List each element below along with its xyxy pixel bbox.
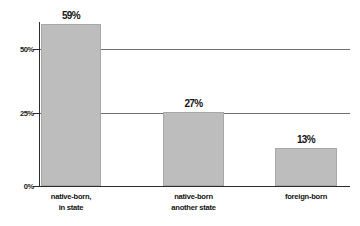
category-label-line: another state <box>146 203 241 214</box>
bar-value-label: 13% <box>275 134 337 145</box>
category-label-line: native-born, <box>26 192 116 203</box>
category-label-line: in state <box>26 203 116 214</box>
y-tick-mark-50 <box>33 49 40 50</box>
bar-foreign-born <box>275 148 337 186</box>
bar-native-born-another-state <box>163 112 224 186</box>
category-label: foreign-born <box>262 192 350 203</box>
category-label-line: native-born <box>146 192 241 203</box>
bar-chart: 50% 25% 0% 59% 27% 13% native-born, in s… <box>0 0 360 226</box>
plot-area: 50% 25% 0% 59% 27% 13% native-born, in s… <box>0 0 360 226</box>
category-label: native-born another state <box>146 192 241 213</box>
bar-value-label: 27% <box>163 98 224 109</box>
y-tick-label-0: 0% <box>24 182 34 191</box>
x-axis-line <box>39 186 350 187</box>
y-axis-line <box>39 22 40 187</box>
y-tick-label-25: 25% <box>20 109 34 118</box>
bar-native-born-in-state <box>41 24 101 186</box>
category-label: native-born, in state <box>26 192 116 213</box>
category-label-line: foreign-born <box>262 192 350 203</box>
y-tick-mark-25 <box>33 113 40 114</box>
y-tick-mark-0 <box>33 186 40 187</box>
bar-value-label: 59% <box>41 10 101 21</box>
y-tick-label-50: 50% <box>20 45 34 54</box>
